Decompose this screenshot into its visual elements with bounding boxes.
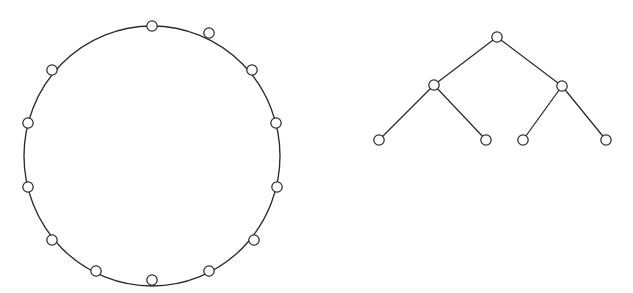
cycle-node[interactable] [247, 65, 257, 75]
cycle-ring-edge [24, 26, 280, 286]
cycle-node[interactable] [47, 65, 57, 75]
tree-edge [434, 37, 497, 85]
cycle-node[interactable] [23, 182, 33, 192]
cycle-edges-group [24, 26, 280, 286]
cycle-node[interactable] [204, 266, 214, 276]
tree-edge [562, 86, 606, 140]
tree-nodes-group [374, 32, 611, 145]
cycle-nodes-group [23, 21, 282, 285]
cycle-node[interactable] [147, 275, 157, 285]
tree-leaf-node[interactable] [481, 135, 491, 145]
tree-root-node[interactable] [492, 32, 502, 42]
tree-internal-node[interactable] [429, 80, 439, 90]
cycle-node[interactable] [204, 28, 214, 38]
tree-edge [497, 37, 562, 86]
tree-edge [523, 86, 562, 140]
cycle-node[interactable] [272, 182, 282, 192]
tree-edges-group [379, 37, 606, 140]
cycle-node[interactable] [271, 118, 281, 128]
tree-internal-node[interactable] [557, 81, 567, 91]
cycle-node[interactable] [91, 266, 101, 276]
figure-canvas [0, 0, 633, 293]
tree-edge [434, 85, 486, 140]
cycle-node[interactable] [249, 235, 259, 245]
cycle-node[interactable] [47, 235, 57, 245]
graph-figure [0, 0, 633, 293]
tree-leaf-node[interactable] [601, 135, 611, 145]
tree-leaf-node[interactable] [518, 135, 528, 145]
tree-edge [379, 85, 434, 140]
cycle-node[interactable] [147, 21, 157, 31]
cycle-node[interactable] [23, 118, 33, 128]
tree-leaf-node[interactable] [374, 135, 384, 145]
